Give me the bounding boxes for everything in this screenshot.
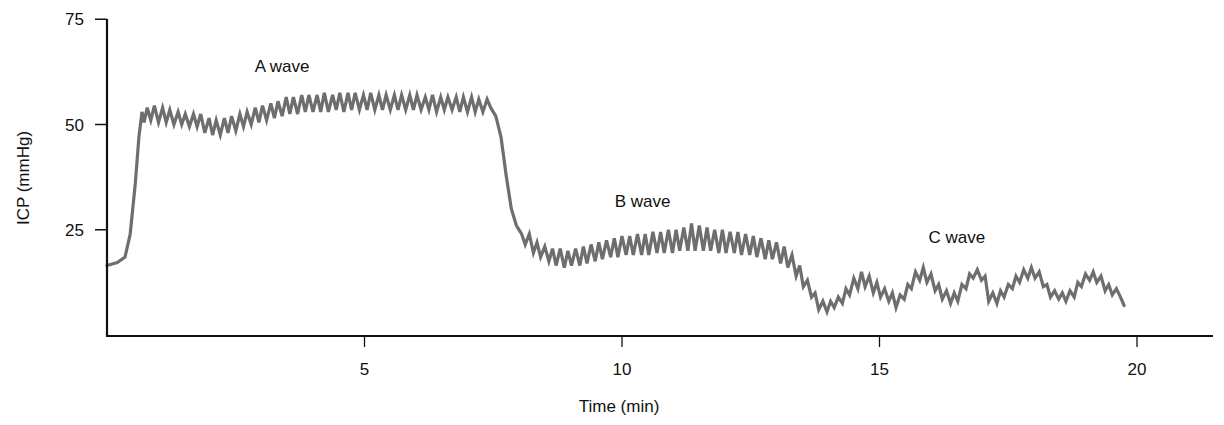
x-tick-label: 5 bbox=[360, 360, 369, 379]
y-axis-ticks: 255075 bbox=[65, 10, 107, 240]
x-axis-ticks: 5101520 bbox=[360, 336, 1147, 379]
y-axis-title: ICP (mmHg) bbox=[14, 131, 33, 225]
b-wave-label: B wave bbox=[615, 192, 671, 211]
x-tick-label: 20 bbox=[1128, 360, 1147, 379]
x-tick-label: 15 bbox=[870, 360, 889, 379]
icp-line-chart: 255075 5101520 Time (min) ICP (mmHg) A w… bbox=[0, 0, 1224, 425]
x-axis-title: Time (min) bbox=[579, 397, 660, 416]
a-wave-label: A wave bbox=[255, 57, 310, 76]
c-wave-label: C wave bbox=[928, 228, 985, 247]
y-tick-label: 25 bbox=[65, 221, 84, 240]
x-tick-label: 10 bbox=[613, 360, 632, 379]
y-tick-label: 50 bbox=[65, 116, 84, 135]
y-tick-label: 75 bbox=[65, 10, 84, 29]
